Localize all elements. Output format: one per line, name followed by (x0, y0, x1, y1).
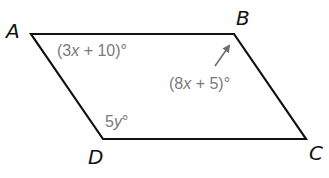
vertex-label-a: A (4, 19, 20, 43)
angle-a-rest: + 10)° (79, 42, 127, 59)
angle-b-coef: (8 (169, 75, 183, 92)
angle-a-coef: (3 (57, 42, 71, 59)
angle-b-rest: + 5)° (191, 75, 230, 92)
angle-a-label: (3x + 10)° (57, 42, 127, 59)
angle-b-pointer-arrow (215, 46, 229, 66)
vertex-label-d: D (88, 145, 103, 169)
vertex-label-c: C (309, 141, 323, 165)
angle-d-rest: ° (122, 113, 128, 130)
angle-b-label: (8x + 5)° (169, 75, 230, 92)
angle-d-label: 5y° (105, 113, 128, 130)
parallelogram-diagram: A B C D (3x + 10)° (8x + 5)° 5y° (0, 0, 329, 178)
vertex-label-b: B (236, 6, 250, 30)
angle-d-coef: 5 (105, 113, 114, 130)
